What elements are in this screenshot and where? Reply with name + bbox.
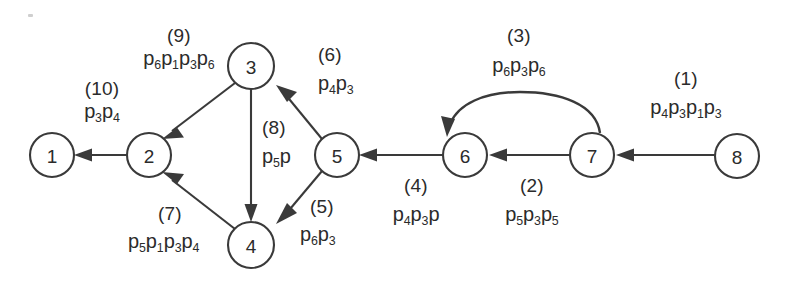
edge-weight-4: p4p3p: [368, 203, 464, 227]
edge-label-2: (2) p5p3p5: [480, 175, 584, 227]
edge-index-4: (4): [368, 175, 464, 197]
node-5-label: 5: [332, 146, 343, 167]
edge-index-7: (7): [158, 203, 258, 225]
edge-label-7: (7) p5p1p3p4: [128, 203, 258, 254]
edge-weight-1: p4p3p1p3: [630, 96, 742, 120]
node-3-label: 3: [246, 57, 257, 78]
node-6-label: 6: [460, 146, 471, 167]
edge-label-5: (5) p6p3: [300, 196, 378, 247]
edge-weight-6: p4p3: [318, 72, 396, 96]
edge-3-to-2: [162, 83, 235, 139]
edge-weight-8: p5p: [262, 145, 332, 169]
arrowhead-into-5-from-6: [359, 149, 377, 162]
edge-7-to-6-arc: [441, 92, 600, 137]
edge-weight-5: p6p3: [300, 223, 378, 247]
node-2[interactable]: 2: [127, 133, 171, 177]
node-7-label: 7: [587, 146, 598, 167]
edge-label-1: (1) p4p3p1p3: [630, 68, 742, 120]
edge-weight-10: p3p4: [60, 100, 144, 124]
node-1-label: 1: [47, 146, 58, 167]
node-3[interactable]: 3: [228, 43, 274, 89]
edge-label-10: (10) p3p4: [60, 78, 144, 124]
edge-weight-7: p5p1p3p4: [128, 230, 258, 254]
arrowhead-into-7-from-8: [616, 149, 634, 162]
arrowhead-into-6-from-7: [489, 149, 507, 162]
edge-weight-2: p5p3p5: [480, 203, 584, 227]
edge-weight-3: p6p3p6: [460, 54, 578, 78]
edge-2-to-1: [74, 149, 126, 162]
edge-index-1: (1): [630, 68, 742, 90]
edge-index-9: (9): [124, 25, 234, 47]
node-8-label: 8: [732, 147, 743, 168]
arrowhead-into-1: [74, 149, 92, 162]
node-6[interactable]: 6: [443, 133, 487, 177]
node-7[interactable]: 7: [570, 133, 614, 177]
edge-label-3: (3) p6p3p6: [460, 25, 578, 78]
edge-6-to-5: [359, 149, 443, 162]
graph-canvas: 1 2 3 4 5 6 7 8: [0, 0, 790, 285]
node-1[interactable]: 1: [30, 133, 74, 177]
arrowhead-into-4-from-5: [276, 203, 297, 224]
graph-diagram: 1 2 3 4 5 6 7 8: [0, 0, 790, 285]
arrowhead-into-3-from-5: [276, 85, 297, 102]
edge-label-4: (4) p4p3p: [368, 175, 464, 227]
edge-label-8: (8) p5p: [262, 117, 332, 169]
arrowhead-into-6-arc: [441, 116, 455, 137]
edge-label-9: (9) p6p1p3p6: [124, 25, 234, 71]
edge-index-10: (10): [60, 78, 144, 100]
edge-label-6: (6) p4p3: [318, 44, 396, 96]
edge-index-8: (8): [262, 117, 332, 139]
node-2-label: 2: [144, 146, 155, 167]
edge-weight-9: p6p1p3p6: [124, 47, 234, 71]
edge-8-to-7: [616, 149, 715, 162]
edge-7-to-6: [489, 149, 570, 162]
edge-index-6: (6): [318, 44, 396, 66]
edge-index-3: (3): [460, 25, 578, 47]
node-8[interactable]: 8: [715, 134, 759, 178]
arrowhead-into-2-from-4: [162, 172, 184, 184]
edge-index-2: (2): [480, 175, 584, 197]
